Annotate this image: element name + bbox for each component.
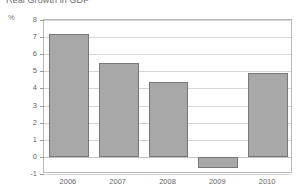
plot-area: 876543210-1 xyxy=(43,19,292,173)
x-axis-tick-label: 2007 xyxy=(109,178,126,186)
gridline-8: 8 xyxy=(44,20,291,21)
y-tick-mark-7 xyxy=(40,37,44,38)
y-axis-tick-label: 3 xyxy=(33,102,37,110)
chart-title: Real Growth in GDP xyxy=(6,0,89,5)
bar-2009 xyxy=(198,157,238,168)
y-axis-tick-label: 8 xyxy=(33,16,37,24)
gridline-0: 0 xyxy=(44,157,291,158)
y-axis-tick-label: 5 xyxy=(33,68,37,76)
y-axis-tick-label: -1 xyxy=(30,170,37,178)
x-axis-tick-label: 2009 xyxy=(209,178,226,186)
y-axis-tick-label: 0 xyxy=(33,153,37,161)
y-tick-mark-5 xyxy=(40,71,44,72)
y-axis-unit-label: % xyxy=(8,13,15,22)
bar-2006 xyxy=(49,34,89,157)
y-tick-mark--1 xyxy=(40,174,44,175)
y-tick-mark-2 xyxy=(40,123,44,124)
y-tick-mark-6 xyxy=(40,54,44,55)
y-tick-mark-1 xyxy=(40,140,44,141)
y-axis-tick-label: 7 xyxy=(33,33,37,41)
y-axis-tick-label: 2 xyxy=(33,119,37,127)
y-tick-mark-0 xyxy=(40,157,44,158)
x-axis-tick-label: 2010 xyxy=(259,178,276,186)
y-tick-mark-8 xyxy=(40,20,44,21)
x-axis-tick-label: 2006 xyxy=(60,178,77,186)
x-axis-tick-label: 2008 xyxy=(159,178,176,186)
gridline--1: -1 xyxy=(44,174,291,175)
y-tick-mark-3 xyxy=(40,106,44,107)
y-tick-mark-4 xyxy=(40,88,44,89)
bar-2008 xyxy=(149,82,189,157)
y-axis-tick-label: 4 xyxy=(33,85,37,93)
bar-2010 xyxy=(248,73,288,157)
bar-2007 xyxy=(99,63,139,157)
y-axis-tick-label: 1 xyxy=(33,136,37,144)
y-axis-tick-label: 6 xyxy=(33,50,37,58)
